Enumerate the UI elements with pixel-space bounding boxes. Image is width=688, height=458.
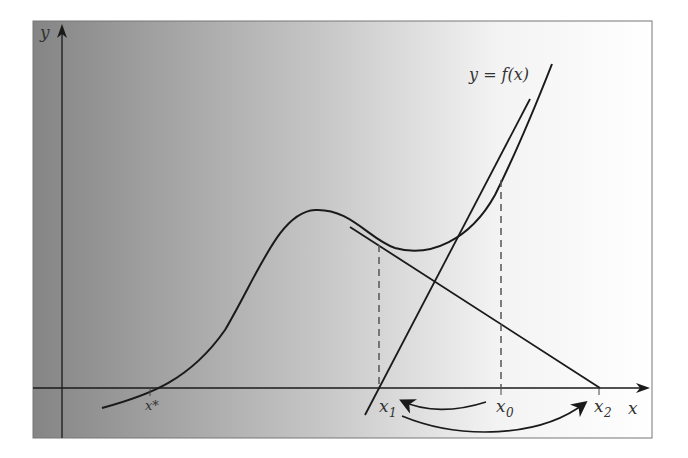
root-label: x* xyxy=(145,398,159,413)
x-axis-label: x xyxy=(628,398,638,418)
svg-text:0: 0 xyxy=(506,406,514,420)
svg-text:2: 2 xyxy=(603,406,612,420)
svg-text:1: 1 xyxy=(389,406,397,420)
background-panel xyxy=(33,21,652,438)
svg-text:x: x xyxy=(379,396,389,416)
newton-method-diagram: y x y = f(x) x* x 1 x 0 x 2 xyxy=(0,0,688,458)
svg-text:x: x xyxy=(496,396,506,416)
function-label: y = f(x) xyxy=(468,65,529,84)
y-axis-label: y xyxy=(39,22,50,42)
svg-text:x: x xyxy=(594,396,604,416)
